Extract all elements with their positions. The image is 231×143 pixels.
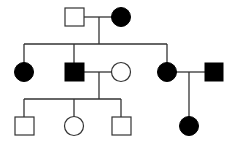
individual-III-4-affected-female <box>180 117 199 136</box>
pedigree-svg <box>0 0 231 143</box>
individual-II-1-affected-female <box>15 63 34 82</box>
individual-II-5-affected-male <box>205 63 223 81</box>
individual-II-2-affected-male <box>65 63 84 81</box>
individual-I-2-affected-female <box>112 8 131 27</box>
individual-I-1-unaffected-male <box>65 8 84 26</box>
individual-III-1-unaffected-male <box>15 117 34 135</box>
individual-III-2-unaffected-female <box>65 117 84 136</box>
individual-II-4-affected-female <box>158 63 177 82</box>
pedigree-chart <box>0 0 231 143</box>
individual-II-3-unaffected-female <box>112 63 131 82</box>
individual-III-3-unaffected-male <box>112 117 131 135</box>
